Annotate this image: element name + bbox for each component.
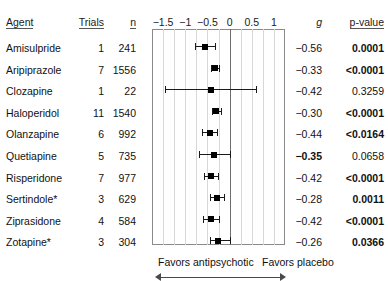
favors-placebo-label: Favors placebo [262, 256, 334, 268]
confidence-interval-cap [199, 151, 200, 158]
row-trials-count: 1 [78, 42, 104, 54]
zero-reference-line [230, 29, 231, 245]
effect-size-marker [202, 44, 208, 50]
confidence-interval-cap [224, 194, 225, 201]
confidence-interval-cap [210, 194, 211, 201]
gridline [241, 29, 242, 245]
row-sample-size: 584 [106, 215, 136, 227]
gridline [252, 29, 253, 245]
row-p-value: <0.0001 [330, 64, 384, 76]
gridline [207, 29, 208, 245]
confidence-interval-cap [165, 86, 166, 93]
row-agent-name: Clozapine [6, 85, 53, 97]
row-agent-name: Amisulpride [6, 42, 61, 54]
row-trials-count: 5 [78, 150, 104, 162]
gridline [185, 29, 186, 245]
row-agent-name: Ziprasidone [6, 215, 61, 227]
plot-border-left [152, 29, 153, 245]
column-header-trials-label: Trials [79, 17, 104, 29]
effect-size-marker [208, 216, 214, 222]
column-header-n-label: n [130, 17, 136, 29]
column-header-trials: Trials [78, 16, 104, 29]
row-sample-size: 629 [106, 193, 136, 205]
column-header-g-label: g [316, 16, 322, 28]
gridline [196, 29, 197, 245]
row-agent-name: Risperidone [6, 172, 62, 184]
row-p-value: <0.0001 [330, 215, 384, 227]
row-sample-size: 735 [106, 150, 136, 162]
gridline [263, 29, 264, 245]
gridline [219, 29, 220, 245]
row-p-value: 0.3259 [330, 85, 384, 97]
row-effect-size-g: −0.42 [288, 172, 322, 184]
row-trials-count: 3 [78, 193, 104, 205]
column-header-pvalue-label: p-value [350, 17, 384, 29]
row-agent-name: Sertindole* [6, 193, 57, 205]
row-p-value: <0.0001 [330, 172, 384, 184]
row-effect-size-g: −0.56 [288, 42, 322, 54]
row-agent-name: Olanzapine [6, 128, 59, 140]
row-sample-size: 1556 [106, 64, 136, 76]
confidence-interval-cap [256, 86, 257, 93]
confidence-interval-cap [230, 237, 231, 244]
plot-border-right [284, 29, 285, 245]
confidence-interval-cap [204, 173, 205, 180]
plot-area [152, 29, 285, 245]
forest-plot: Agent Trials n g p-value −1.5−1−0.500.51… [0, 0, 388, 281]
row-agent-name: Aripiprazole [6, 64, 61, 76]
row-agent-name: Quetiapine [6, 150, 57, 162]
row-sample-size: 22 [106, 85, 136, 97]
effect-size-marker [212, 65, 218, 71]
row-p-value: 0.0001 [330, 42, 384, 54]
row-agent-name: Haloperidol [6, 107, 59, 119]
row-effect-size-g: −0.42 [288, 85, 322, 97]
column-header-pvalue: p-value [330, 16, 384, 29]
confidence-interval-cap [219, 216, 220, 223]
column-header-agent-label: Agent [6, 17, 33, 29]
row-p-value: 0.0658 [330, 150, 384, 162]
row-p-value: <0.0001 [330, 107, 384, 119]
confidence-interval-cap [210, 237, 211, 244]
row-sample-size: 241 [106, 42, 136, 54]
row-trials-count: 6 [78, 128, 104, 140]
effect-size-marker [214, 195, 220, 201]
favors-antipsychotic-label: Favors antipsychotic [158, 256, 254, 268]
row-trials-count: 4 [78, 215, 104, 227]
confidence-interval-cap [195, 43, 196, 50]
confidence-interval-cap [230, 151, 231, 158]
row-sample-size: 977 [106, 172, 136, 184]
row-sample-size: 992 [106, 128, 136, 140]
row-effect-size-g: −0.35 [288, 150, 322, 162]
confidence-interval-cap [219, 65, 220, 72]
effect-size-marker [208, 173, 214, 179]
column-header-n: n [106, 16, 136, 29]
row-trials-count: 7 [78, 64, 104, 76]
effect-size-marker [213, 108, 219, 114]
confidence-interval-cap [202, 129, 203, 136]
row-p-value: 0.0011 [330, 193, 384, 205]
row-trials-count: 7 [78, 172, 104, 184]
row-sample-size: 304 [106, 236, 136, 248]
row-trials-count: 1 [78, 85, 104, 97]
arrow-right-icon [218, 272, 286, 281]
gridline [163, 29, 164, 245]
effect-size-marker [215, 238, 221, 244]
row-effect-size-g: −0.26 [288, 236, 322, 248]
row-trials-count: 3 [78, 236, 104, 248]
row-trials-count: 11 [78, 107, 104, 119]
confidence-interval-cap [221, 108, 222, 115]
arrow-left-icon [155, 272, 223, 281]
row-p-value: 0.0366 [330, 236, 384, 248]
row-effect-size-g: −0.33 [288, 64, 322, 76]
confidence-interval-cap [217, 129, 218, 136]
effect-size-marker [211, 152, 217, 158]
row-effect-size-g: −0.44 [288, 128, 322, 140]
confidence-interval-cap [218, 173, 219, 180]
row-effect-size-g: −0.42 [288, 215, 322, 227]
row-effect-size-g: −0.30 [288, 107, 322, 119]
row-agent-name: Zotapine* [6, 236, 51, 248]
x-tick-label: 1 [254, 16, 294, 28]
confidence-interval-cap [215, 43, 216, 50]
gridline [174, 29, 175, 245]
row-p-value: <0.0164 [330, 128, 384, 140]
